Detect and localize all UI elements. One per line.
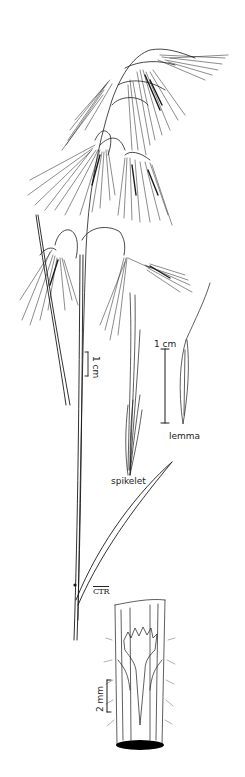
ligule-drawing (104, 599, 175, 750)
spikelet-drawing (126, 293, 142, 475)
scale-label-plant: 1 cm (91, 356, 100, 378)
lemma-label: lemma (169, 432, 200, 441)
culm-drawing (36, 215, 172, 640)
scale-label-spikelet: 1 cm (154, 340, 176, 349)
scale-bar-plant (85, 352, 88, 376)
scale-bar-spikelet (161, 349, 169, 423)
botanical-illustration: 1 cm 1 cm lemma spikelet 2 mm CTR (0, 0, 245, 777)
node-dot (73, 583, 76, 586)
scale-label-ligule: 2 mm (96, 686, 105, 712)
scale-bar-ligule (107, 680, 111, 712)
spikelet-label: spikelet (111, 477, 146, 486)
artist-signature: CTR (93, 588, 109, 596)
lemma-drawing (180, 283, 210, 424)
panicle-drawing (20, 49, 228, 620)
